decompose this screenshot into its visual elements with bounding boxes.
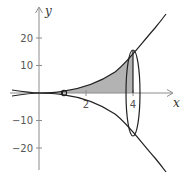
y-tick-label-neg20: −20 bbox=[12, 143, 33, 154]
shaded-region bbox=[63, 51, 134, 94]
y-tick-label-10: 10 bbox=[20, 60, 33, 71]
y-axis-label: y bbox=[44, 4, 52, 18]
y-tick-label-neg10: −10 bbox=[12, 115, 33, 126]
volume-of-revolution-diagram: 20 10 −10 −20 2 4 y x bbox=[0, 0, 193, 177]
y-tick-label-20: 20 bbox=[20, 33, 33, 44]
x-tick-label-4: 4 bbox=[130, 99, 136, 110]
x-axis-label: x bbox=[173, 96, 180, 110]
curve-upper bbox=[12, 14, 166, 96]
